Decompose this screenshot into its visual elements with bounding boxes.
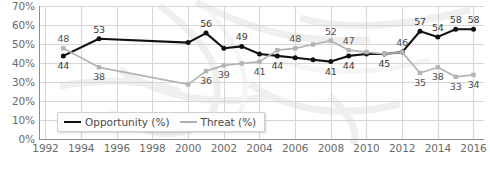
data-value-label: 34 [464, 79, 484, 90]
y-tick-label: 10% [0, 114, 35, 126]
x-tick-label: 2002 [204, 142, 244, 154]
legend-item-threat[interactable]: Threat (%) [180, 116, 257, 128]
x-tick-label: 2000 [168, 142, 208, 154]
y-tick-label: 70% [0, 0, 35, 12]
data-point-marker[interactable] [275, 48, 279, 52]
data-point-marker[interactable] [61, 46, 65, 50]
chart-legend: Opportunity (%) Threat (%) [57, 112, 265, 132]
x-tick-label: 1998 [133, 142, 173, 154]
x-tick-label: 2006 [275, 142, 315, 154]
data-point-marker[interactable] [293, 55, 298, 60]
data-point-marker[interactable] [204, 69, 208, 73]
legend-label-opportunity: Opportunity (%) [85, 116, 170, 128]
x-tick-label: 2012 [382, 142, 422, 154]
x-tick-label: 2016 [454, 142, 490, 154]
data-point-marker[interactable] [204, 31, 209, 36]
x-tick-label: 1994 [61, 142, 101, 154]
data-point-marker[interactable] [257, 52, 262, 57]
data-point-marker[interactable] [329, 39, 333, 43]
data-value-label: 53 [89, 24, 109, 35]
data-point-marker[interactable] [239, 44, 244, 49]
data-point-marker[interactable] [293, 46, 297, 50]
data-point-marker[interactable] [471, 27, 476, 32]
data-point-marker[interactable] [346, 53, 351, 58]
legend-item-opportunity[interactable]: Opportunity (%) [64, 116, 170, 128]
data-point-marker[interactable] [471, 73, 475, 77]
data-point-marker[interactable] [97, 36, 102, 41]
data-value-label: 58 [464, 14, 484, 25]
data-value-label: 47 [339, 35, 359, 46]
data-value-label: 46 [392, 37, 412, 48]
data-point-marker[interactable] [97, 65, 101, 69]
data-value-label: 45 [374, 58, 394, 69]
legend-label-threat: Threat (%) [201, 116, 257, 128]
data-point-marker[interactable] [418, 71, 422, 75]
y-tick-label: 30% [0, 76, 35, 88]
data-point-marker[interactable] [436, 65, 440, 69]
data-value-label: 39 [214, 69, 234, 80]
legend-line-threat-icon [180, 121, 197, 123]
y-tick-label: 20% [0, 95, 35, 107]
data-value-label: 44 [267, 60, 287, 71]
data-value-label: 48 [53, 33, 73, 44]
x-tick-label: 2010 [347, 142, 387, 154]
data-point-marker[interactable] [311, 42, 315, 46]
data-point-marker[interactable] [453, 27, 458, 32]
data-point-marker[interactable] [382, 52, 386, 56]
data-point-marker[interactable] [311, 57, 316, 62]
data-point-marker[interactable] [453, 75, 457, 79]
data-point-marker[interactable] [400, 50, 404, 54]
data-point-marker[interactable] [418, 29, 423, 34]
data-point-marker[interactable] [221, 46, 226, 51]
data-point-marker[interactable] [346, 48, 350, 52]
data-value-label: 56 [196, 18, 216, 29]
y-tick-label: 60% [0, 19, 35, 31]
data-point-marker[interactable] [222, 63, 226, 67]
y-tick-label: 40% [0, 57, 35, 69]
data-value-label: 44 [53, 60, 73, 71]
data-point-marker[interactable] [364, 50, 368, 54]
data-point-marker[interactable] [257, 59, 261, 63]
x-tick-label: 1996 [97, 142, 137, 154]
data-point-marker[interactable] [328, 59, 333, 64]
data-point-marker[interactable] [186, 82, 190, 86]
x-tick-label: 2004 [240, 142, 280, 154]
x-tick-label: 2014 [418, 142, 458, 154]
data-point-marker[interactable] [186, 40, 191, 45]
data-value-label: 49 [232, 31, 252, 42]
x-tick-label: 2008 [311, 142, 351, 154]
data-point-marker[interactable] [61, 53, 66, 58]
data-value-label: 38 [89, 71, 109, 82]
data-point-marker[interactable] [275, 53, 280, 58]
line-chart: 70%60%50%40%30%20%10%0% 1992199419961998… [0, 0, 490, 169]
y-tick-label: 50% [0, 38, 35, 50]
x-tick-label: 1992 [26, 142, 66, 154]
data-value-label: 44 [339, 60, 359, 71]
legend-line-opportunity-icon [64, 121, 81, 123]
data-value-label: 41 [250, 66, 270, 77]
data-point-marker[interactable] [435, 34, 440, 39]
data-value-label: 48 [285, 33, 305, 44]
data-point-marker[interactable] [239, 61, 243, 65]
